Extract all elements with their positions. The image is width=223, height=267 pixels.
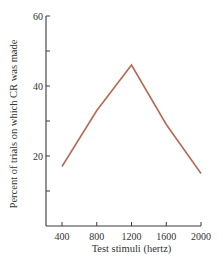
series-line xyxy=(62,65,201,174)
axes xyxy=(46,16,201,226)
x-tick-label: 2000 xyxy=(191,231,211,242)
y-ticks: 204060 xyxy=(33,11,50,192)
line-chart: 204060 400800120016002000 Test stimuli (… xyxy=(0,0,223,267)
x-tick-label: 1600 xyxy=(156,231,176,242)
series xyxy=(62,65,201,174)
y-axis-label: Percent of trials on which CR was made xyxy=(8,39,19,208)
y-tick-label: 20 xyxy=(33,151,43,162)
x-tick-label: 1200 xyxy=(122,231,142,242)
x-tick-label: 400 xyxy=(55,231,70,242)
x-axis-label: Test stimuli (hertz) xyxy=(92,243,172,255)
y-tick-label: 40 xyxy=(33,81,43,92)
x-ticks: 400800120016002000 xyxy=(55,222,212,242)
y-tick-label: 60 xyxy=(33,11,43,22)
x-tick-label: 800 xyxy=(89,231,104,242)
